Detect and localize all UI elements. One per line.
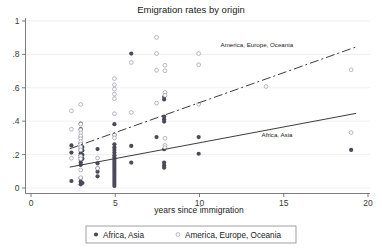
x-tick-label: 20 [363, 198, 373, 208]
chart-title: Emigration rates by origin [137, 4, 245, 15]
data-point [79, 103, 83, 107]
data-point [80, 181, 84, 185]
data-point [112, 122, 116, 126]
series-annotation-1: Africa, Asia [262, 131, 294, 138]
data-point [155, 68, 159, 72]
data-point [197, 135, 201, 139]
data-point [163, 69, 167, 73]
data-point [264, 85, 268, 89]
data-point [155, 52, 159, 56]
x-tick-label: 0 [29, 198, 34, 208]
data-point [95, 147, 99, 151]
legend-marker-filled-circle-icon [94, 232, 98, 236]
data-point [163, 63, 167, 67]
data-point [70, 127, 74, 131]
legend-entry-1[interactable]: Africa, Asia [94, 231, 144, 240]
data-point [349, 68, 353, 72]
data-point [79, 168, 83, 172]
data-point [113, 87, 117, 91]
data-point [163, 136, 167, 140]
data-point [129, 61, 133, 65]
data-point [113, 112, 117, 116]
data-point [129, 144, 133, 148]
y-tick-label: .2 [12, 150, 19, 160]
data-point [79, 122, 83, 126]
data-point [349, 148, 353, 152]
legend-label: Africa, Asia [103, 231, 144, 240]
data-point [163, 93, 167, 97]
data-point [155, 101, 159, 105]
data-point [79, 176, 83, 180]
data-point [69, 179, 73, 183]
series-annotations-layer: Africa, AsiaAmerica, Europe, Oceania [221, 41, 294, 138]
data-point [79, 148, 83, 152]
legend-label: America, Europe, Oceania [185, 231, 281, 240]
x-axis-title-group: years since immigration [154, 205, 244, 215]
data-point [69, 151, 73, 155]
data-point [162, 166, 166, 170]
data-point [162, 119, 166, 123]
emigration-rates-scatter-chart: Emigration rates by origin 0.2.4.6.81 05… [0, 0, 382, 248]
series-2-points [70, 35, 354, 179]
data-point [69, 143, 73, 147]
series-1-points [69, 51, 353, 188]
series-annotation-2: America, Europe, Oceania [221, 41, 294, 48]
data-point [113, 77, 117, 81]
data-point [162, 97, 166, 101]
y-tick-label: .8 [12, 49, 19, 59]
data-point [95, 174, 99, 178]
y-tick-label: 1 [15, 16, 20, 26]
data-point [113, 92, 117, 96]
data-point [112, 184, 116, 188]
x-tick-label: 5 [113, 198, 118, 208]
y-tick-label: .6 [12, 83, 19, 93]
data-point [129, 51, 133, 55]
data-point [197, 63, 201, 67]
data-point [96, 166, 100, 170]
data-point [349, 131, 353, 135]
chart-legend: Africa, AsiaAmerica, Europe, Oceania [86, 226, 296, 243]
data-point [197, 52, 201, 56]
y-tick-label: .4 [12, 116, 19, 126]
data-point [154, 135, 158, 139]
data-point [70, 109, 74, 113]
data-point [79, 157, 83, 161]
x-axis-title: years since immigration [154, 205, 244, 215]
data-point [129, 111, 133, 115]
legend-entry-2[interactable]: America, Europe, Oceania [176, 231, 281, 240]
chart-svg: Emigration rates by origin 0.2.4.6.81 05… [0, 0, 382, 248]
data-point [129, 161, 133, 165]
x-tick-label: 15 [279, 198, 289, 208]
data-point [113, 97, 117, 101]
data-point [197, 152, 201, 156]
data-point [113, 83, 117, 87]
legend-marker-open-circle-icon [176, 233, 180, 237]
data-point [96, 156, 100, 160]
data-point [155, 35, 159, 39]
chart-title-group: Emigration rates by origin [137, 4, 245, 15]
y-tick-label: 0 [15, 183, 20, 193]
y-axis: 0.2.4.6.81 [12, 16, 25, 194]
scatter-points-layer [69, 35, 353, 188]
data-point [113, 136, 117, 140]
data-point [70, 156, 74, 160]
